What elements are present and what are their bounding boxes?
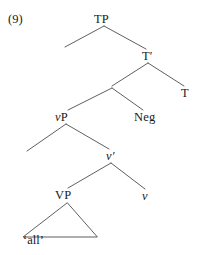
- branch-tp-spec: [65, 26, 104, 47]
- tree-branches: [0, 0, 201, 255]
- node-t: T: [181, 87, 189, 100]
- branch-vbar-v: [111, 163, 145, 189]
- branch-tbar-t: [148, 63, 184, 86]
- node-t-bar: T′: [142, 50, 153, 63]
- p-glyph: P: [61, 110, 68, 124]
- branch-tbar-negp: [112, 63, 148, 86]
- syntax-tree-figure: (9) TP T′ T: [0, 0, 201, 255]
- node-vp: VP: [55, 189, 71, 202]
- terminal-all: ‘all’: [23, 234, 44, 247]
- branch-negp-vp: [68, 88, 112, 110]
- branch-negp-neg: [112, 88, 143, 110]
- branch-tp-tbar: [104, 26, 146, 49]
- branch-vbar-vp: [68, 163, 111, 188]
- node-tp: TP: [94, 13, 109, 26]
- branch-vp-vbar: [66, 124, 109, 149]
- node-little-vp: vP: [55, 111, 68, 124]
- node-v-bar: v′: [106, 150, 115, 163]
- branch-vp-spec: [27, 124, 66, 151]
- node-neg: Neg: [134, 111, 155, 124]
- node-little-v-head: v: [142, 190, 148, 203]
- constituent-triangle: [23, 203, 97, 237]
